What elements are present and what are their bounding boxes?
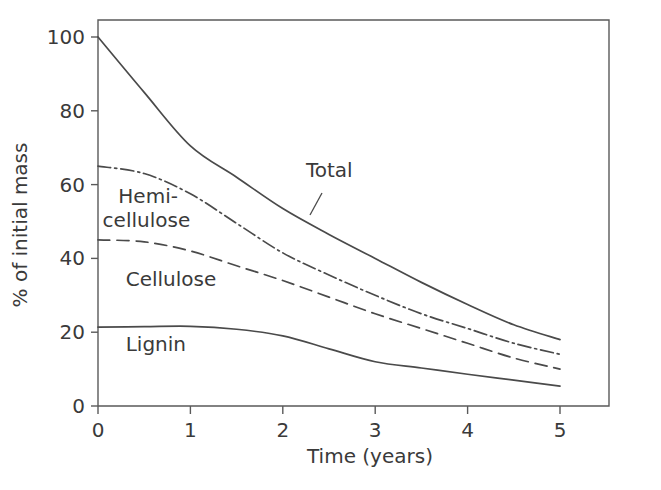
x-axis-tick-labels: 012345: [92, 418, 567, 442]
series-label-lignin: Lignin: [126, 332, 186, 356]
series-label-cellulose: cellulose: [103, 208, 191, 232]
x-tick-label-1: 1: [184, 418, 197, 442]
y-tick-label-20: 20: [60, 320, 85, 344]
chart-container: 020406080100 012345 TotalHemi-celluloseC…: [0, 0, 661, 490]
x-tick-label-4: 4: [461, 418, 474, 442]
x-axis-title: Time (years): [306, 444, 433, 468]
y-tick-label-60: 60: [60, 173, 85, 197]
y-tick-label-0: 0: [72, 394, 85, 418]
series-label-total: Total: [305, 158, 353, 182]
y-tick-label-40: 40: [60, 246, 85, 270]
y-axis-tick-labels: 020406080100: [47, 25, 85, 418]
decomposition-line-chart: 020406080100 012345 TotalHemi-celluloseC…: [0, 0, 661, 490]
y-axis-ticks: [91, 37, 98, 406]
y-axis-title: % of initial mass: [8, 143, 32, 308]
total-leader-line: [310, 193, 322, 215]
x-tick-label-2: 2: [276, 418, 289, 442]
y-tick-label-100: 100: [47, 25, 85, 49]
x-tick-label-3: 3: [369, 418, 382, 442]
x-tick-label-5: 5: [554, 418, 567, 442]
series-label-cellulose: Cellulose: [126, 267, 217, 291]
x-tick-label-0: 0: [92, 418, 105, 442]
series-label-hemi-: Hemi-: [118, 184, 178, 208]
x-axis-ticks: [98, 406, 560, 414]
y-tick-label-80: 80: [60, 99, 85, 123]
